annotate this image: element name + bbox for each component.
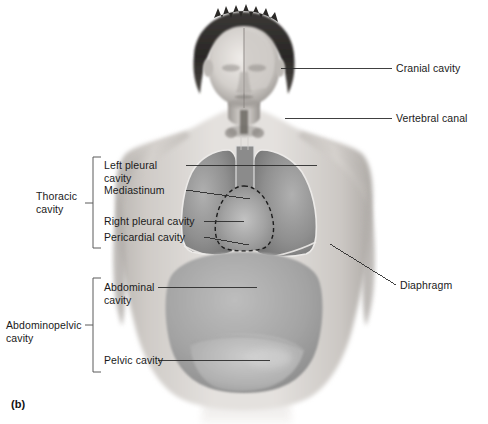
abdominopelvic-cavity-region	[166, 252, 323, 393]
label-thoracic-cavity-line1: Thoracic	[36, 190, 77, 203]
label-pelvic-cavity: Pelvic cavity	[104, 354, 163, 367]
label-left-pleural-cavity-line1: Left pleural	[104, 159, 157, 172]
label-left-pleural-cavity-line2: cavity	[104, 172, 131, 185]
label-diaphragm: Diaphragm	[400, 279, 452, 292]
label-abdominal-cavity-line1: Abdominal	[104, 281, 155, 294]
bracket-abdominopelvic-cavity	[93, 278, 101, 372]
head	[193, 4, 294, 138]
label-abdominal-cavity-line2: cavity	[104, 294, 131, 307]
body-cavities-figure: Cranial cavity Vertebral canal Diaphragm…	[0, 0, 488, 424]
label-cranial-cavity: Cranial cavity	[396, 62, 460, 75]
label-mediastinum: Mediastinum	[104, 184, 165, 197]
bracket-thoracic-cavity	[93, 157, 101, 248]
label-thoracic-cavity-line2: cavity	[36, 203, 63, 216]
label-right-pleural-cavity: Right pleural cavity	[104, 215, 195, 228]
label-abdominopelvic-cavity-line2: cavity	[6, 332, 33, 345]
label-abdominopelvic-cavity-line1: Abdominopelvic	[6, 319, 82, 332]
label-vertebral-canal: Vertebral canal	[396, 112, 468, 125]
vertebral-canal-region	[240, 110, 248, 134]
label-pericardial-cavity: Pericardial cavity	[104, 231, 185, 244]
panel-label: (b)	[11, 398, 25, 410]
brackets	[85, 157, 101, 372]
